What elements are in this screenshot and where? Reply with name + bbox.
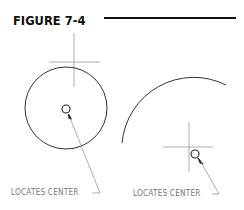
left-center-aperture-icon	[62, 105, 70, 113]
right-arc	[122, 77, 226, 143]
right-example	[122, 77, 226, 194]
left-leader-line	[70, 118, 100, 193]
right-leader-line	[201, 162, 219, 194]
right-callout-label: LOCATES CENTER	[133, 189, 201, 199]
left-circle	[25, 67, 107, 149]
right-center-aperture-icon	[191, 150, 199, 158]
left-example	[25, 33, 107, 193]
right-arrowhead-icon	[198, 158, 203, 164]
figure-drawing	[0, 0, 244, 210]
left-callout-label: LOCATES CENTER	[11, 188, 79, 198]
